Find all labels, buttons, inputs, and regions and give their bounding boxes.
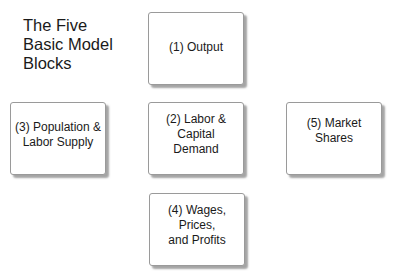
block-population-labor-supply: (3) Population & Labor Supply [10,102,106,175]
block-labor-capital-demand: (2) Labor & Capital Demand [148,102,244,175]
block-wages-label: (4) Wages, Prices, and Profits [150,203,244,248]
diagram-title: The Five Basic Model Blocks [23,16,113,73]
block-output-label: (1) Output [169,40,223,55]
block-labor-capital-label: (2) Labor & Capital Demand [149,112,243,157]
block-market-shares: (5) Market Shares [286,102,382,175]
block-output: (1) Output [148,12,244,85]
block-wages-prices-profits: (4) Wages, Prices, and Profits [149,193,245,266]
block-population-label: (3) Population & Labor Supply [15,120,101,150]
block-market-shares-label: (5) Market Shares [287,116,381,146]
